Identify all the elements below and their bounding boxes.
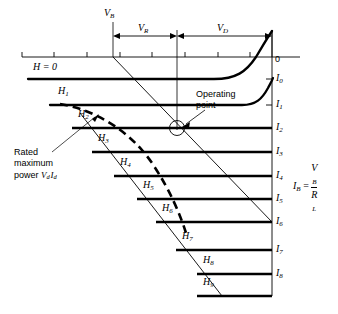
curve-label-h4: H4: [120, 157, 131, 169]
annotation-operating-point-line2: point: [196, 100, 236, 111]
current-label-i7: I7: [276, 244, 283, 256]
curve-label-h3: H3: [98, 133, 109, 145]
voltage-axis-ticks: [22, 52, 250, 57]
curve-label-h5: H5: [143, 180, 154, 192]
annotation-rated-power-word: power: [14, 170, 41, 180]
annotation-rated-line2: maximum: [14, 158, 57, 169]
characteristic-curve-h1: [50, 78, 273, 105]
annotation-operating-point-line1: Operating: [196, 89, 236, 100]
operating-point-leader: [182, 110, 205, 128]
current-label-i8: I8: [276, 268, 283, 280]
current-label-i3: I3: [276, 146, 283, 158]
equation-fraction: VB RL: [311, 162, 317, 212]
curve-label-h2: H2: [78, 109, 89, 121]
label-vd: VD: [215, 23, 230, 35]
current-label-i5: I5: [276, 193, 283, 205]
label-vb: VB: [104, 8, 114, 20]
rated-max-power-leader: [52, 114, 99, 152]
annotation-operating-point: Operating point: [196, 89, 236, 112]
equation-denominator: RL: [311, 189, 317, 213]
label-vr: VR: [136, 23, 150, 35]
load-line: [113, 57, 272, 222]
label-origin: 0: [275, 54, 280, 65]
annotation-rated-line1: Rated: [14, 147, 57, 158]
annotation-rated-max-power: Rated maximum power Vd Id: [14, 147, 57, 181]
equation-equals: =: [303, 180, 309, 191]
figure-container: VB VR VD 0 H = 0 H1 H2 H3 H4 H5 H6 H7 H8…: [0, 0, 338, 314]
annotation-rated-line3: power Vd Id: [14, 170, 57, 182]
current-label-i1: I1: [276, 99, 283, 111]
curve-label-h1: H1: [58, 86, 69, 98]
equation-numerator: VB: [311, 162, 317, 186]
current-label-i6: I6: [276, 216, 283, 228]
equation-load-current: IB = VB RL: [293, 162, 317, 212]
curve-label-h8: H8: [203, 255, 214, 267]
current-label-i2: I2: [276, 122, 283, 134]
characteristic-curve-h0: [28, 31, 272, 79]
equation-lhs: IB: [293, 180, 301, 191]
curve-label-h0: H = 0: [33, 62, 57, 73]
curve-label-h9: H9: [203, 277, 214, 289]
curve-label-h7: H7: [182, 231, 193, 243]
current-label-i0: I0: [276, 73, 283, 85]
curve-label-h6: H6: [162, 203, 173, 215]
current-label-i4: I4: [276, 170, 283, 182]
